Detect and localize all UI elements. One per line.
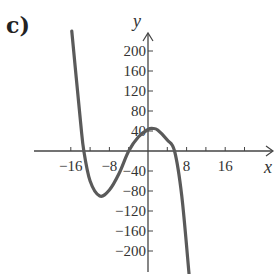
x-tick-label: 16 xyxy=(218,158,234,174)
x-axis-label: x xyxy=(263,157,272,177)
x-tick-label: −8 xyxy=(101,158,117,174)
y-tick-label: −160 xyxy=(115,223,146,239)
y-tick-label: −40 xyxy=(123,163,146,179)
y-tick-label: −200 xyxy=(115,243,146,259)
x-tick-label: 8 xyxy=(183,158,191,174)
x-tick-label: −16 xyxy=(59,158,83,174)
plot-area: −16−88162001601208040−40−80−120−160−200x… xyxy=(0,0,279,274)
y-tick-label: −80 xyxy=(123,183,146,199)
y-tick-label: 120 xyxy=(124,83,147,99)
y-tick-label: 80 xyxy=(131,103,146,119)
y-tick-label: −120 xyxy=(115,203,146,219)
y-tick-label: 200 xyxy=(124,43,147,59)
chart: c) −16−88162001601208040−40−80−120−160−2… xyxy=(0,0,279,274)
panel-label: c) xyxy=(6,12,30,38)
y-tick-label: 160 xyxy=(124,63,147,79)
y-axis-label: y xyxy=(131,11,141,31)
